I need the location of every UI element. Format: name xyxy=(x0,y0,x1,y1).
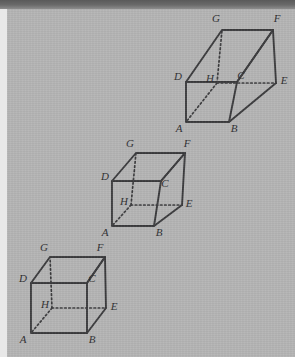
cube-bottom-label-B: B xyxy=(89,333,96,345)
cube-bottom-label-G: G xyxy=(40,241,48,253)
cube-top-top-face xyxy=(186,30,273,82)
cube-top-hidden-hg xyxy=(217,30,222,83)
cube-middle-label-A: A xyxy=(101,226,109,238)
cube-bottom-label-H: H xyxy=(40,298,50,310)
cube-middle-label-E: E xyxy=(185,197,193,209)
cube-top-label-C: C xyxy=(237,69,245,81)
cube-bottom-label-A: A xyxy=(19,333,27,345)
cubes-drawing: G F D C E H A B G F D C E H xyxy=(0,0,295,357)
cube-top-hidden-ha xyxy=(186,83,217,122)
cube-middle-edge-fe xyxy=(182,153,185,205)
cube-bottom-hidden-hg xyxy=(50,257,52,308)
cube-middle-label-D: D xyxy=(100,170,109,182)
cube-top: G F D C E H A B xyxy=(173,12,288,134)
cube-middle-label-G: G xyxy=(126,137,134,149)
cube-bottom: G F D C E H A B xyxy=(18,241,118,345)
cube-bottom-label-E: E xyxy=(110,300,118,312)
cube-bottom-edge-eb xyxy=(87,308,106,333)
cube-top-label-A: A xyxy=(175,122,183,134)
cube-top-edge-fe xyxy=(273,30,276,83)
cube-top-label-B: B xyxy=(231,122,238,134)
cube-middle-edge-eb xyxy=(154,205,182,226)
cube-bottom-edge-fe xyxy=(105,257,106,308)
cube-top-label-H: H xyxy=(205,72,215,84)
cube-top-front-face xyxy=(186,82,237,122)
cube-bottom-hidden-ha xyxy=(31,308,52,333)
cube-top-label-G: G xyxy=(212,12,220,24)
cube-middle-label-F: F xyxy=(183,137,191,149)
cube-middle-label-B: B xyxy=(156,226,163,238)
cube-middle-label-C: C xyxy=(161,177,169,189)
cube-bottom-label-C: C xyxy=(88,272,96,284)
cube-middle-hidden-ha xyxy=(112,205,131,226)
cube-top-label-E: E xyxy=(280,74,288,86)
cube-top-label-D: D xyxy=(173,70,182,82)
cube-bottom-label-D: D xyxy=(18,272,27,284)
cube-middle-label-H: H xyxy=(119,195,129,207)
cube-middle: G F D C E H A B xyxy=(100,137,193,238)
cube-middle-hidden-hg xyxy=(131,153,136,205)
cube-top-label-F: F xyxy=(273,12,281,24)
figure-page: G F D C E H A B G F D C E H xyxy=(0,0,295,357)
cube-bottom-label-F: F xyxy=(96,241,104,253)
